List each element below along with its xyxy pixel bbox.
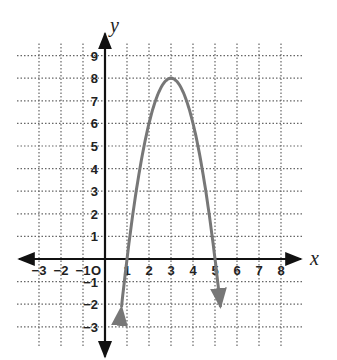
x-tick-label: 8 [277, 263, 284, 278]
x-tick-label: −2 [54, 263, 69, 278]
x-tick-label: 3 [167, 263, 174, 278]
y-tick-label: 7 [91, 94, 98, 109]
x-tick-label: 4 [189, 263, 197, 278]
x-tick-label: −3 [32, 263, 47, 278]
y-tick-label: 2 [91, 207, 98, 222]
y-tick-label: −2 [83, 297, 98, 312]
x-tick-label: 2 [145, 263, 152, 278]
y-axis-label: y [108, 14, 119, 37]
y-tick-label: 8 [91, 71, 98, 86]
y-tick-label: 3 [91, 184, 98, 199]
y-tick-label: 4 [91, 162, 99, 177]
y-tick-label: −1 [83, 275, 98, 290]
x-tick-label: 6 [233, 263, 240, 278]
x-tick-label: 7 [255, 263, 262, 278]
y-tick-label: 1 [91, 229, 98, 244]
x-axis-label: x [309, 247, 319, 269]
y-tick-label: 5 [91, 139, 98, 154]
parabola-graph: −3−2−1O12345678−3−2−1123456789 x y [0, 0, 337, 360]
y-tick-label: 9 [91, 49, 98, 64]
y-tick-label: 6 [91, 116, 98, 131]
y-tick-label: −3 [83, 320, 98, 335]
